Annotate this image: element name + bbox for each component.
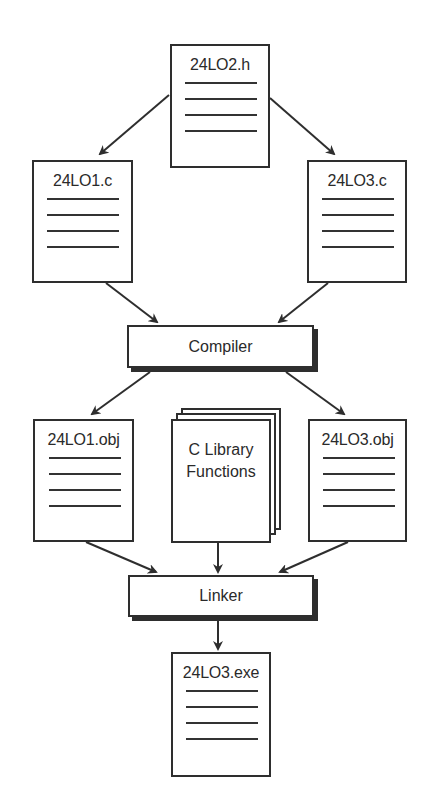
c-library-functions-stack: C Library Functions	[171, 408, 283, 543]
library-label: C Library Functions	[173, 439, 269, 483]
arrow-obj1-to-linker	[86, 542, 156, 572]
text-line	[322, 198, 394, 200]
object-file-24LO3-obj: 24LO3.obj	[308, 419, 407, 542]
text-line	[185, 98, 257, 100]
library-label-line2: Functions	[173, 461, 269, 483]
linker-process: Linker	[128, 575, 314, 617]
arrow-source1-to-compiler	[106, 283, 157, 322]
library-page-front: C Library Functions	[171, 419, 271, 543]
text-line	[323, 473, 395, 475]
linker-label: Linker	[199, 587, 243, 605]
text-line	[49, 473, 121, 475]
text-line	[186, 706, 258, 708]
object-file-label: 24LO3.obj	[310, 431, 405, 449]
text-line	[322, 230, 394, 232]
arrow-compiler-to-obj3	[286, 372, 344, 414]
text-line	[322, 246, 394, 248]
text-line	[185, 82, 257, 84]
executable-file-label: 24LO3.exe	[173, 664, 269, 682]
text-line	[185, 130, 257, 132]
text-line	[186, 738, 258, 740]
executable-file-24LO3-exe: 24LO3.exe	[171, 652, 271, 777]
library-label-line1: C Library	[173, 439, 269, 461]
text-line	[323, 489, 395, 491]
object-file-24LO1-obj: 24LO1.obj	[33, 419, 134, 542]
arrow-header-to-source1	[100, 95, 169, 154]
arrow-obj3-to-linker	[280, 542, 348, 572]
source-file-24LO3-c: 24LO3.c	[307, 160, 407, 283]
source-file-24LO1-c: 24LO1.c	[32, 160, 133, 283]
text-line	[186, 690, 258, 692]
text-line	[47, 246, 119, 248]
text-line	[49, 505, 121, 507]
text-line	[49, 457, 121, 459]
source-file-label: 24LO1.c	[34, 172, 131, 190]
text-line	[47, 214, 119, 216]
text-line	[323, 457, 395, 459]
text-line	[185, 114, 257, 116]
source-file-label: 24LO3.c	[309, 172, 405, 190]
header-file-label: 24LO2.h	[172, 56, 268, 74]
compiler-process: Compiler	[127, 325, 314, 368]
arrow-header-to-source3	[270, 98, 334, 154]
arrow-source3-to-compiler	[279, 283, 328, 322]
text-line	[186, 722, 258, 724]
arrow-compiler-to-obj1	[92, 372, 150, 414]
compiler-label: Compiler	[188, 338, 252, 356]
object-file-label: 24LO1.obj	[35, 431, 132, 449]
text-line	[323, 505, 395, 507]
text-line	[47, 198, 119, 200]
header-file-24LO2-h: 24LO2.h	[170, 44, 270, 168]
text-line	[47, 230, 119, 232]
text-line	[49, 489, 121, 491]
text-line	[322, 214, 394, 216]
